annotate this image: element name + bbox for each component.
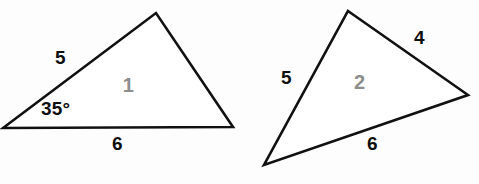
triangle-one-side-label-bottom: 6 — [112, 134, 123, 153]
triangle-two-interior-label: 2 — [354, 72, 365, 92]
triangle-one-outline — [3, 13, 233, 128]
triangle-one-side-label-left: 5 — [55, 48, 66, 67]
triangle-two-side-label-left: 5 — [281, 68, 292, 87]
triangle-one-interior-label: 1 — [123, 75, 134, 95]
figure-canvas — [0, 0, 479, 184]
geometry-figure: 5 6 35° 1 5 4 6 2 — [0, 0, 479, 184]
triangle-two-side-label-bottom: 6 — [367, 134, 378, 153]
triangle-one-angle-label: 35° — [41, 99, 70, 118]
triangle-two-side-label-upper-right: 4 — [414, 28, 425, 47]
triangle-two-outline — [264, 11, 468, 165]
